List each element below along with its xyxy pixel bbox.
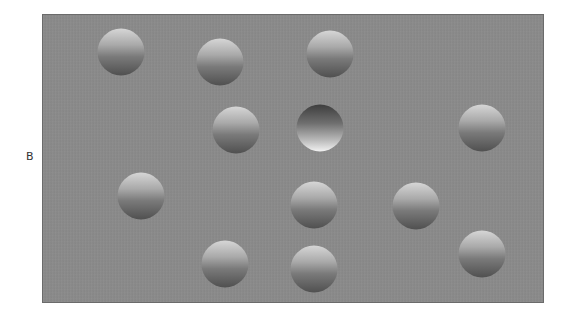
stimulus-panel — [42, 14, 544, 303]
convex-sphere — [393, 183, 440, 230]
convex-sphere — [307, 31, 354, 78]
convex-sphere — [202, 241, 249, 288]
convex-sphere — [459, 231, 506, 278]
convex-sphere — [213, 107, 260, 154]
convex-sphere — [98, 29, 145, 76]
convex-sphere — [118, 173, 165, 220]
concave-sphere — [297, 105, 344, 152]
convex-sphere — [197, 39, 244, 86]
convex-sphere — [291, 182, 338, 229]
convex-sphere — [291, 246, 338, 293]
convex-sphere — [459, 105, 506, 152]
panel-label: B — [26, 150, 34, 163]
